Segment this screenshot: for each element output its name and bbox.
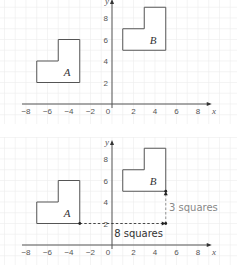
x-tick-label: 6 [174,107,179,116]
x-tick-label: 4 [153,107,158,116]
label-8-squares: 8 squares [114,228,163,239]
x-tick-label: 6 [174,248,179,257]
end-point-dot [164,190,167,193]
x-tick-label: −6 [43,248,53,257]
x-tick-label: 2 [131,107,136,116]
x-tick-label: 0 [106,248,111,257]
x-tick-label: 2 [131,248,136,257]
y-tick-label: 2 [104,79,109,88]
shape-label-b: B [150,175,157,187]
shape-label-a: A [63,207,71,219]
shape-b [123,7,166,50]
x-tick-label: 4 [153,248,158,257]
x-tick-label: −4 [64,248,74,257]
shape-label-b: B [150,34,157,46]
translation-diagram: −8−6−4−2024682468xyAB8 squares3 squares [0,137,237,265]
label-3-squares: 3 squares [169,202,218,213]
y-axis-label: y [104,0,109,6]
y-tick-label: 8 [104,14,109,23]
x-tick-label: −2 [86,248,96,257]
y-axis-arrow-icon [110,0,114,4]
shape-a [37,40,80,83]
x-tick-label: 0 [106,107,111,116]
grid [0,0,237,124]
y-tick-label: 6 [104,36,109,45]
x-axis-label: x [211,106,216,116]
y-tick-label: 4 [104,198,109,207]
y-axis-label: y [104,137,109,147]
start-point-dot [164,222,167,225]
y-tick-label: 8 [104,155,109,164]
x-tick-label: 8 [196,248,201,257]
y-tick-label: 6 [104,177,109,186]
diagram-canvas: −8−6−4−2024682468xyAB −8−6−4−2024682468x… [0,0,237,279]
x-tick-label: −8 [21,248,31,257]
shape-b [123,148,166,191]
x-axis-label: x [211,247,216,257]
grid [0,137,237,265]
x-tick-label: 8 [196,107,201,116]
shape-label-a: A [63,66,71,78]
x-tick-label: −2 [86,107,96,116]
x-tick-label: −4 [64,107,74,116]
y-axis-arrow-icon [110,140,114,145]
start-point-dot [78,222,81,225]
x-tick-label: −8 [21,107,31,116]
shape-a [37,181,80,224]
original-diagram: −8−6−4−2024682468xyAB [0,0,237,124]
y-tick-label: 4 [104,57,109,66]
y-tick-label: 2 [104,220,109,229]
x-tick-label: −6 [43,107,53,116]
